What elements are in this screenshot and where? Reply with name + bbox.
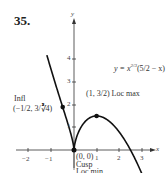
y-axis-arrow-icon [72,18,76,24]
inflection-coords-label: (−1/2, 3/∛4) [13,104,52,113]
y-tick-label: 3 [67,77,71,85]
x-tick-label: 3 [140,154,144,162]
y-axis-label: y [71,10,74,18]
inflection-label: Infl [14,94,26,103]
loc-min-label: Loc min [76,167,103,173]
x-tick-label: −2 [22,155,29,163]
local-max-marker [94,114,99,119]
local-max-label: (1, 3/2) Loc max [86,89,140,98]
inflection-point-marker [60,105,65,110]
x-axis-label: x [156,145,159,153]
y-tick-label: 2 [67,100,71,108]
y-tick-label: 4 [67,54,71,62]
x-tick-label: 1 [95,154,99,162]
x-tick-label: −1 [45,155,52,163]
equation-label: y = x2/3(5/2 − x) [114,61,165,73]
chart-plot [0,0,166,173]
y-tick-label: 1 [67,122,71,130]
x-tick-label: 2 [117,154,121,162]
